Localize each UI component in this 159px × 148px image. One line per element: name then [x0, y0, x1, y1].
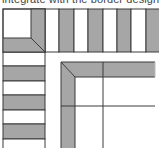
outer-corner-tile — [3, 9, 45, 52]
left-column-stripes — [3, 52, 45, 148]
top-row-stripes — [31, 9, 159, 52]
inner-corner-frame — [61, 62, 155, 148]
border-pattern-diagram — [0, 0, 159, 148]
